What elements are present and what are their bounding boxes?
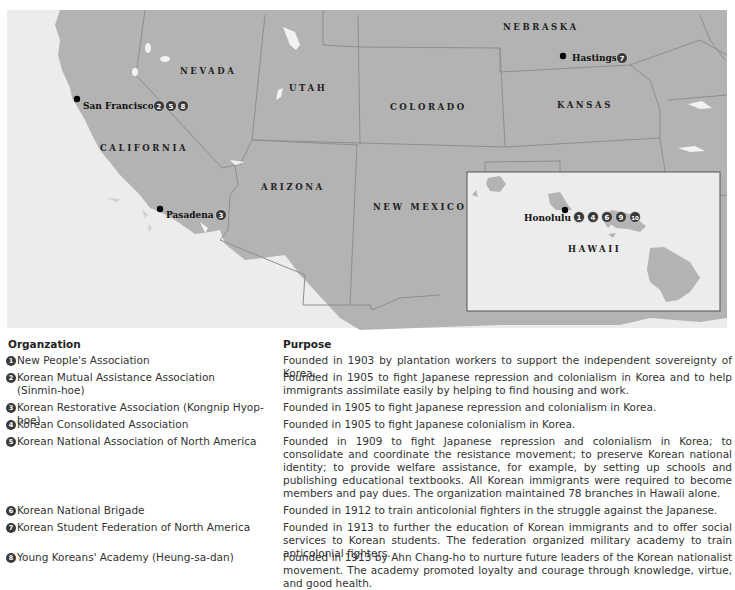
- badge-4: 4: [588, 212, 599, 223]
- badge-3: 3: [216, 210, 227, 221]
- state-label-california: CALIFORNIA: [100, 143, 188, 153]
- svg-text:3: 3: [219, 212, 224, 220]
- state-label-nebraska: NEBRASKA: [503, 22, 579, 32]
- city-label: Pasadena: [166, 210, 214, 220]
- org-purpose: Founded in 1912 to train anticolonial fi…: [283, 504, 732, 517]
- svg-text:10: 10: [631, 215, 639, 221]
- org-purpose: Founded in 1913 by Ahn Chang-ho to nurtu…: [283, 551, 732, 590]
- org-name: Korean National Association of North Ame…: [17, 435, 256, 448]
- number-badge: 7: [6, 523, 16, 533]
- svg-text:1: 1: [577, 214, 582, 222]
- org-purpose: Founded in 1909 to fight Japanese repres…: [283, 435, 732, 500]
- number-badge: 1: [6, 356, 16, 366]
- city-dot: [74, 96, 80, 102]
- city-label: Hastings: [572, 53, 617, 63]
- svg-text:8: 8: [181, 103, 186, 111]
- number-badge: 5: [6, 437, 16, 447]
- badge-7: 7: [617, 53, 628, 64]
- org-purpose: Founded in 1905 to fight Japanese coloni…: [283, 418, 732, 431]
- org-name: New People's Association: [17, 354, 150, 367]
- org-purpose: Founded in 1905 to fight Japanese repres…: [283, 371, 732, 397]
- org-purpose: Founded in 1905 to fight Japanese repres…: [283, 401, 732, 414]
- state-label-hawaii: HAWAII: [568, 244, 621, 254]
- city-label: San Francisco: [83, 101, 154, 111]
- svg-text:5: 5: [169, 103, 174, 111]
- number-badge: 8: [6, 553, 16, 563]
- badge-9: 9: [616, 212, 627, 223]
- city-dot: [560, 53, 566, 59]
- header-purpose: Purpose: [283, 338, 331, 351]
- svg-text:2: 2: [157, 103, 162, 111]
- svg-text:6: 6: [605, 214, 610, 222]
- city-label-honolulu: Honolulu: [524, 213, 571, 223]
- number-badge: 3: [6, 403, 16, 413]
- org-name: Young Koreans' Academy (Heung-sa-dan): [17, 551, 234, 564]
- state-label-new-mexico: NEW MEXICO: [373, 202, 466, 212]
- org-name: Korean National Brigade: [17, 504, 145, 517]
- badge-8: 8: [178, 101, 189, 112]
- org-name: Korean Mutual Assistance Association (Si…: [17, 371, 226, 397]
- number-badge: 2: [6, 373, 16, 383]
- badge-10: 10: [630, 212, 641, 223]
- number-badge: 4: [6, 420, 16, 430]
- badge-2: 2: [154, 101, 165, 112]
- badge-1: 1: [574, 212, 585, 223]
- svg-text:4: 4: [591, 214, 596, 222]
- map: NEVADA UTAH CALIFORNIA COLORADO NEBRASKA…: [0, 0, 735, 330]
- state-label-arizona: ARIZONA: [260, 182, 325, 192]
- state-label-utah: UTAH: [289, 83, 327, 93]
- city-dot: [157, 206, 163, 212]
- state-label-kansas: KANSAS: [557, 100, 613, 110]
- svg-text:7: 7: [620, 55, 625, 63]
- hawaii-inset: Honolulu 1 4 6 9 10 HAWAII: [467, 172, 720, 311]
- org-name: Korean Consolidated Association: [17, 418, 188, 431]
- state-label-colorado: COLORADO: [390, 102, 467, 112]
- number-badge: 6: [6, 506, 16, 516]
- state-label-nevada: NEVADA: [180, 66, 236, 76]
- svg-text:9: 9: [619, 214, 624, 222]
- badge-5: 5: [166, 101, 177, 112]
- org-name: Korean Student Federation of North Ameri…: [17, 521, 250, 534]
- badge-6: 6: [602, 212, 613, 223]
- header-organization: Organzation: [8, 338, 81, 351]
